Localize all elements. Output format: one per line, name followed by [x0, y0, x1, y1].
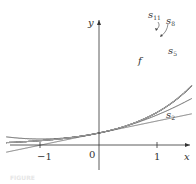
x-axis-arrow-icon	[185, 143, 190, 147]
x-axis-label: x	[184, 151, 190, 162]
label-s11: s11	[148, 9, 161, 21]
y-axis-arrow-icon	[97, 20, 101, 25]
label-s5: s5	[168, 45, 177, 57]
taylor-polynomials-chart: y x 0 1 −1 f s11 s8 s5 s2 FIGURE	[0, 0, 196, 184]
origin-label: 0	[89, 149, 95, 160]
y-axis-label: y	[87, 17, 94, 28]
x-tick-label-neg-one: −1	[37, 151, 52, 162]
label-s8: s8	[166, 15, 175, 27]
figure-caption: FIGURE	[10, 174, 35, 181]
label-s2: s2	[166, 109, 175, 121]
x-tick-label-one: 1	[154, 151, 160, 162]
label-f: f	[137, 55, 144, 66]
